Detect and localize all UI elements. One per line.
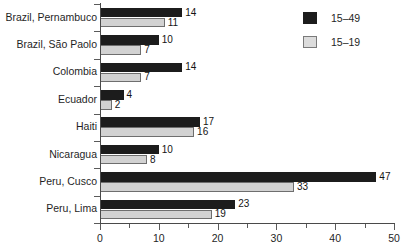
legend-entry-1: 15–19 [303,36,360,48]
y-axis-tick [94,4,100,5]
category-label: Brazil, São Paolo [0,39,97,50]
bar-value-label: 7 [144,45,150,55]
x-axis-tick-major [335,224,336,230]
x-axis-tick-label: 10 [139,233,179,244]
x-axis-tick-major [159,224,160,230]
bar-value-label: 10 [162,35,173,45]
y-axis-tick [94,31,100,32]
bar-value-label: 19 [215,209,226,219]
x-axis-tick-minor [247,224,248,228]
x-axis-tick-major [100,224,101,230]
bar [100,145,159,155]
x-axis-tick-major [218,224,219,230]
legend-label-1: 15–19 [331,37,360,48]
x-axis-tick-minor [306,224,307,228]
bar [100,117,200,127]
bar [100,8,182,18]
x-axis-tick-label: 30 [256,233,296,244]
bar [100,100,112,110]
x-axis-tick-label: 50 [374,233,405,244]
bar [100,18,165,28]
bar [100,63,182,73]
bar [100,127,194,137]
x-axis-tick-label: 40 [315,233,355,244]
category-label: Haiti [0,121,97,132]
dark-swatch-icon [303,12,317,24]
x-axis-tick-minor [365,224,366,228]
bar-value-label: 47 [379,172,390,182]
bar-value-label: 11 [168,18,178,28]
bar-value-label: 10 [162,145,173,155]
bar [100,45,141,55]
light-swatch-icon [303,36,317,48]
bar [100,155,147,165]
category-label: Peru, Lima [0,203,97,214]
category-label: Ecuador [0,94,97,105]
legend-entry-0: 15–49 [303,12,360,24]
x-axis-tick-minor [188,224,189,228]
x-axis-tick-minor [129,224,130,228]
y-axis-tick [94,86,100,87]
x-axis-tick-major [276,224,277,230]
y-axis-tick [94,114,100,115]
bar-value-label: 8 [150,155,156,165]
bar [100,210,212,220]
bar-value-label: 2 [115,100,121,110]
category-label: Colombia [0,66,97,77]
y-axis-tick [94,141,100,142]
x-axis-tick-label: 0 [80,233,120,244]
y-axis-tick [94,196,100,197]
legend-label-0: 15–49 [331,13,360,24]
x-axis-tick-major [394,224,395,230]
y-axis-line [100,3,101,224]
bar [100,172,376,182]
bar-value-label: 14 [185,62,196,72]
bar-value-label: 14 [185,8,196,18]
category-label: Brazil, Pernambuco [0,12,97,23]
bar-value-label: 33 [297,182,308,192]
category-label: Peru, Cusco [0,176,97,187]
bar-value-label: 7 [144,72,150,82]
bar-value-label: 4 [127,90,133,100]
bar-chart: Brazil, PernambucoBrazil, São PaoloColom… [0,0,405,252]
y-axis-tick [94,59,100,60]
bar-value-label: 23 [238,199,249,209]
bar [100,182,294,192]
bar [100,73,141,83]
category-label: Nicaragua [0,149,97,160]
bar-value-label: 16 [197,127,208,137]
x-axis-tick-label: 20 [198,233,238,244]
y-axis-tick [94,168,100,169]
